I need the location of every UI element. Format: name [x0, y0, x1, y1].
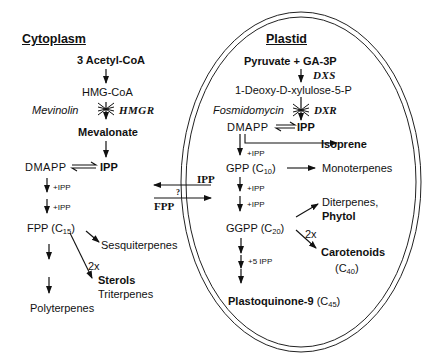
- cytoplasm-header: Cytoplasm: [22, 33, 86, 45]
- cyto-plus-ipp-2: +IPP: [53, 202, 71, 214]
- cyto-ipp-label: IPP: [100, 161, 118, 173]
- dxp-label: 1-Deoxy-D-xylulose-5-P: [235, 84, 352, 96]
- diterpenes-label: Diterpenes,: [322, 196, 378, 208]
- dxs-enzyme-label: DXS: [313, 69, 336, 81]
- phytol-label: Phytol: [322, 210, 356, 222]
- pyruvate-ga3p-label: Pyruvate + GA-3P: [244, 55, 337, 67]
- polyterpenes-label: Polyterpenes: [30, 302, 94, 314]
- cyto-plus-ipp-1: +IPP: [53, 182, 71, 194]
- dxr-enzyme-label: DXR: [314, 104, 337, 116]
- plastid-dmapp-label: DMAPP: [227, 121, 269, 133]
- exchange-question-label: ?: [176, 187, 180, 199]
- gpp-label: GPP (C10): [226, 162, 276, 178]
- cyto-dmapp-label: DMAPP: [25, 161, 67, 173]
- plus-5-ipp-label: +5 IPP: [248, 256, 272, 268]
- equilibrium-arrows-icon: [72, 162, 96, 171]
- fpp-label: FPP (C15): [27, 222, 75, 238]
- triterpenes-label: Triterpenes: [98, 288, 153, 300]
- acetyl-coa-label: 3 Acetyl-CoA: [77, 54, 145, 66]
- plastid-plus-ipp-2: +IPP: [247, 183, 265, 195]
- monoterpenes-label: Monoterpenes: [322, 162, 392, 174]
- plastid-header: Plastid: [266, 33, 307, 45]
- hmg-coa-label: HMG-CoA: [82, 86, 133, 98]
- plastid-ipp-label: IPP: [297, 121, 315, 133]
- carotenoids-c40-label: (C40): [335, 262, 359, 278]
- sesquiterpenes-label: Sesquiterpenes: [101, 239, 177, 251]
- carotenoids-2x-label: 2x: [305, 228, 317, 240]
- sterols-2x-label: 2x: [88, 260, 100, 272]
- carotenoids-label: Carotenoids: [321, 246, 385, 258]
- plastoquinone-label: Plastoquinone-9 (C45): [228, 295, 340, 311]
- plastid-plus-ipp-3: +IPP: [247, 199, 265, 211]
- ggpp-label: GGPP (C20): [226, 222, 284, 238]
- mevalonate-label: Mevalonate: [78, 126, 138, 138]
- equilibrium-arrows-icon: [276, 122, 295, 131]
- exchange-fpp-label: FPP: [154, 200, 174, 212]
- hmgr-enzyme-label: HMGR: [119, 104, 155, 116]
- plastid-plus-ipp-1: +IPP: [247, 148, 265, 160]
- isoprene-label: Isoprene: [321, 138, 367, 150]
- exchange-ipp-label: IPP: [197, 173, 215, 185]
- mevinolin-inhibitor-label: Mevinolin: [32, 104, 78, 116]
- sterols-label: Sterols: [98, 274, 135, 286]
- fosmidomycin-inhibitor-label: Fosmidomycin: [213, 104, 284, 116]
